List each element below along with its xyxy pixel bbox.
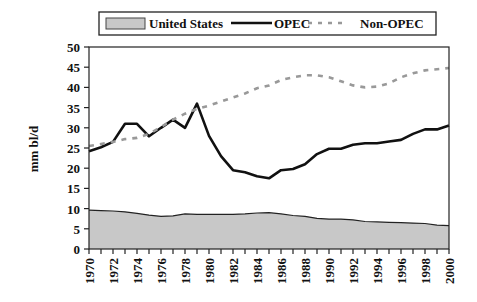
y-tick-label: 15: [67, 181, 81, 196]
x-tick-label: 1986: [274, 258, 289, 285]
y-tick-label: 10: [67, 202, 80, 217]
x-tick-label: 1998: [418, 258, 433, 285]
legend-swatch-us: [106, 18, 145, 29]
x-tick-label: 1996: [394, 258, 409, 285]
y-tick-label: 30: [67, 121, 80, 136]
x-tick-label: 1988: [298, 258, 313, 285]
x-tick-label: 1982: [226, 258, 241, 284]
plot-area: [89, 68, 449, 249]
y-tick-label: 0: [74, 242, 81, 257]
x-tick-label: 1984: [250, 258, 265, 285]
series-line-non-opec: [89, 68, 449, 146]
x-tick-label: 1978: [178, 258, 193, 285]
x-tick-label: 1976: [154, 258, 169, 285]
legend: United States OPEC Non-OPEC: [99, 12, 436, 35]
x-tick-label: 1974: [130, 258, 145, 285]
y-tick-label: 35: [67, 101, 81, 116]
y-tick-label: 5: [74, 222, 81, 237]
y-tick-label: 20: [67, 161, 80, 176]
x-tick-label: 1992: [346, 258, 361, 284]
x-tick-label: 1994: [370, 258, 385, 285]
x-tick-label: 1990: [322, 258, 337, 284]
chart: United States OPEC Non-OPEC mm bl/d 0510…: [0, 0, 477, 302]
y-tick-label: 25: [67, 141, 81, 156]
legend-label-nonopec: Non-OPEC: [360, 16, 424, 31]
y-axis-label: mm bl/d: [26, 125, 41, 172]
x-tick-label: 1972: [106, 258, 121, 284]
series-area-united-states: [89, 210, 449, 249]
legend-label-opec: OPEC: [274, 16, 310, 31]
x-tick-label: 2000: [442, 258, 457, 284]
x-tick-label: 1970: [82, 258, 97, 284]
legend-label-us: United States: [149, 16, 223, 31]
y-tick-label: 45: [67, 60, 81, 75]
y-tick-label: 50: [67, 40, 80, 55]
series-line-opec: [89, 104, 449, 179]
y-tick-label: 40: [67, 80, 80, 95]
x-tick-label: 1980: [202, 258, 217, 284]
